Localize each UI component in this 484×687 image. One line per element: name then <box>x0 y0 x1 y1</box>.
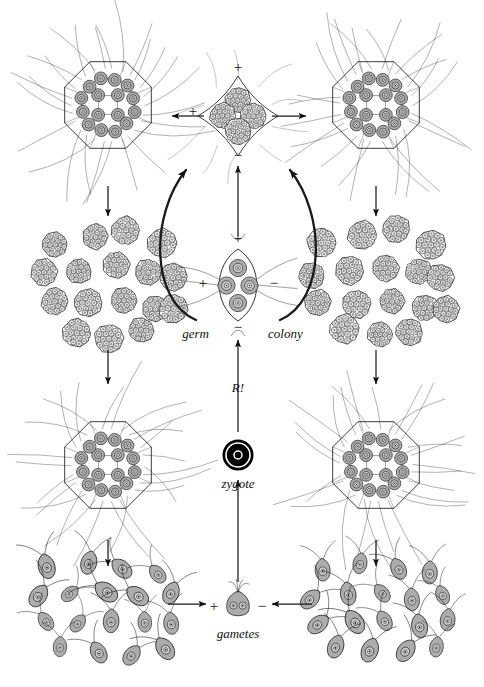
life-cycle-diagram: germcolonyR!zygotegametes++−+−+−+− <box>0 0 484 687</box>
sign-germ-left-plus: + <box>199 275 207 291</box>
label-gametes: gametes <box>217 626 260 641</box>
label-zygote: zygote <box>220 476 254 491</box>
daughter-colony-8 <box>136 259 161 285</box>
figure-canvas: germcolonyR!zygotegametes++−+−+−+− <box>0 0 484 687</box>
sign-germ-right-minus: − <box>270 275 278 291</box>
label-reduction: R! <box>231 380 244 395</box>
sign-gamete-right-minus: − <box>258 598 266 614</box>
label-germ: germ <box>182 326 209 341</box>
sign-tetrad-bottom-minus: − <box>234 147 242 163</box>
sign-tetrad-top-plus: + <box>234 59 242 75</box>
label-colony: colony <box>268 326 303 341</box>
zygote <box>223 440 254 471</box>
sign-tetrad-left-plus: + <box>189 103 197 119</box>
sign-germ-up-plus: + <box>234 230 242 246</box>
sign-meiosis-up-minus: − <box>234 319 242 335</box>
sign-gamete-left-plus: + <box>210 598 218 614</box>
